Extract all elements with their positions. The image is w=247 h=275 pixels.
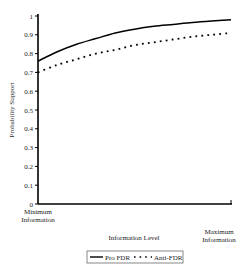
x-axis-label: Information Level (108, 234, 159, 242)
x-tick-label-max-line1: Maximum (204, 228, 234, 236)
y-tick-label: 0.1 (24, 182, 33, 190)
legend-label-anti-fdr: Anti-FDR (154, 254, 183, 262)
y-tick-label: 0.5 (24, 107, 33, 115)
y-axis-ticks: 00.10.20.30.40.50.60.70.80.91 (24, 13, 38, 209)
x-tick-label-min-line1: Minimum (24, 208, 53, 216)
line-chart: 00.10.20.30.40.50.60.70.80.91 Probabilit… (0, 0, 247, 275)
y-tick-label: 0.7 (24, 69, 33, 77)
y-tick-label: 0.2 (24, 163, 33, 171)
y-tick-label: 0.3 (24, 144, 33, 152)
legend: Pro FDR Anti-FDR (87, 251, 183, 263)
y-tick-label: 0.9 (24, 31, 33, 39)
y-tick-label: 1 (30, 13, 34, 21)
y-tick-label: 0.8 (24, 50, 33, 58)
series-line-pro-fdr (38, 20, 231, 61)
x-tick-label-max-line2: Information (202, 236, 236, 244)
y-axis-label: Probability Support (8, 82, 16, 137)
y-tick-label: 0.4 (24, 125, 33, 133)
y-tick-label: 0.6 (24, 88, 33, 96)
series-line-anti-fdr (38, 33, 231, 72)
series-group (38, 20, 231, 73)
x-tick-label-min-line2: Information (21, 216, 55, 224)
legend-label-pro-fdr: Pro FDR (105, 254, 130, 262)
